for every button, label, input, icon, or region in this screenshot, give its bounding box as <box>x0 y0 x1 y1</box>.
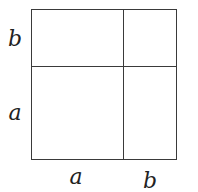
label-left-bottom: a <box>8 102 21 124</box>
horizontal-divider <box>31 66 177 67</box>
label-bottom-left: a <box>69 166 82 188</box>
outer-square <box>31 9 177 160</box>
label-bottom-right: b <box>143 170 157 192</box>
vertical-divider <box>123 9 124 160</box>
label-left-top: b <box>8 28 22 50</box>
